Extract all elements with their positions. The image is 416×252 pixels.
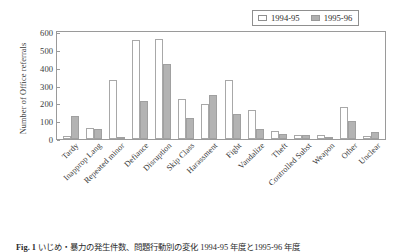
bar xyxy=(256,129,264,139)
bar-group xyxy=(152,32,175,139)
x-axis-tick-label: Tardy xyxy=(60,141,80,161)
bar-group xyxy=(244,32,267,139)
y-axis-title: Number of Office referrals xyxy=(19,19,28,159)
x-axis-tick-label: Weapon xyxy=(311,141,337,167)
y-tick-600: 600 xyxy=(40,28,57,38)
legend-label-1994-95: 1994-95 xyxy=(271,13,300,23)
bar xyxy=(209,95,217,139)
figure-number: Fig. 1 xyxy=(16,243,36,252)
legend-label-1995-96: 1995-96 xyxy=(324,13,353,23)
x-axis-tick-label: Controlled Subst xyxy=(266,141,313,188)
x-axis-tick-label: Unclear xyxy=(358,141,383,166)
bar-group xyxy=(175,32,198,139)
bar xyxy=(155,39,163,139)
bar xyxy=(201,104,209,139)
bar xyxy=(71,116,79,139)
legend-item-1994-95: 1994-95 xyxy=(258,13,300,23)
bar-group xyxy=(267,32,290,139)
x-axis-tick-label: Other xyxy=(340,141,360,161)
x-axis-labels: TardyInapprop LangRepeated minorDefiance… xyxy=(56,141,386,241)
bar xyxy=(94,129,102,139)
bar xyxy=(86,128,94,139)
bar xyxy=(317,135,325,139)
bar xyxy=(233,114,241,139)
figure-caption: Fig. 1 いじめ・暴力の発生件数、問題行動別の変化 1994-95 年度と1… xyxy=(16,240,408,252)
bar xyxy=(302,135,310,139)
bar-group xyxy=(128,32,151,139)
bar xyxy=(186,118,194,139)
bar-group xyxy=(198,32,221,139)
bar-group xyxy=(105,32,128,139)
y-tick-400: 400 xyxy=(40,64,57,74)
open-square-swatch-icon xyxy=(258,15,267,21)
bar xyxy=(340,107,348,139)
bar xyxy=(163,64,171,139)
bar xyxy=(63,136,71,139)
bar-group xyxy=(360,32,383,139)
filled-square-swatch-icon xyxy=(311,15,320,21)
caption-text: いじめ・暴力の発生件数、問題行動別の変化 1994-95 年度と1995-96 … xyxy=(38,243,300,252)
bar xyxy=(271,131,279,139)
bar xyxy=(363,136,371,139)
bar-group xyxy=(290,32,313,139)
bar-group xyxy=(82,32,105,139)
y-tick-100: 100 xyxy=(40,117,57,127)
y-tick-500: 500 xyxy=(40,46,57,56)
bar xyxy=(248,110,256,139)
bar xyxy=(132,40,140,140)
x-axis-tick-label: Theft xyxy=(270,141,289,160)
plot-area: 6005004003002001000 xyxy=(56,31,386,140)
bar-group xyxy=(221,32,244,139)
bar xyxy=(178,99,186,139)
bar xyxy=(348,121,356,139)
bar xyxy=(279,134,287,139)
y-tick-200: 200 xyxy=(40,99,57,109)
bar xyxy=(225,80,233,139)
bar-groups xyxy=(57,32,385,139)
bar xyxy=(371,132,379,139)
bar xyxy=(294,135,302,139)
bar xyxy=(117,137,125,139)
bar xyxy=(109,80,117,139)
x-axis-tick-label: Fight xyxy=(224,141,243,160)
bar xyxy=(140,101,148,139)
bar-group xyxy=(59,32,82,139)
chart-legend: 1994-95 1995-96 xyxy=(252,10,359,26)
y-tick-300: 300 xyxy=(40,82,57,92)
legend-item-1995-96: 1995-96 xyxy=(311,13,353,23)
bar-group xyxy=(314,32,337,139)
bar xyxy=(325,137,333,139)
bar-group xyxy=(337,32,360,139)
